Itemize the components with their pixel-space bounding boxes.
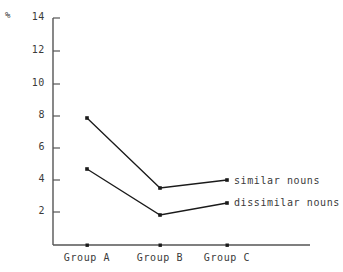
chart-container: % 14 12 10 8 6 4 2 Group A Group B Group… <box>0 0 343 272</box>
x-axis-label-group-c: Group C <box>187 252 267 263</box>
y-axis-ticks <box>53 18 60 212</box>
chart-plot-area <box>0 0 343 272</box>
series-dissimilar-nouns-point-group-a <box>85 167 89 171</box>
y-axis-unit-label: % <box>5 10 11 20</box>
series-similar-nouns-point-group-b <box>158 186 162 190</box>
series-dissimilar-nouns-line <box>87 169 227 215</box>
y-axis-tick-label-14: 14 <box>23 11 45 22</box>
x-tick-group-c <box>226 244 229 247</box>
series-dissimilar-nouns-point-group-b <box>158 213 162 217</box>
legend-label-similar-nouns: similar nouns <box>234 175 320 186</box>
y-axis-tick-label-10: 10 <box>23 77 45 88</box>
series-dissimilar-nouns-point-group-c <box>225 201 229 205</box>
y-axis-tick-label-6: 6 <box>23 141 45 152</box>
legend-label-dissimilar-nouns: dissimilar nouns <box>234 197 340 208</box>
series-similar-nouns <box>85 116 229 190</box>
series-dissimilar-nouns <box>85 167 229 217</box>
y-axis-tick-label-4: 4 <box>23 173 45 184</box>
x-tick-group-a <box>86 244 89 247</box>
y-axis-tick-label-2: 2 <box>23 205 45 216</box>
series-similar-nouns-point-group-c <box>225 178 229 182</box>
y-axis-tick-label-8: 8 <box>23 109 45 120</box>
x-tick-group-b <box>159 244 162 247</box>
series-similar-nouns-point-group-a <box>85 116 89 120</box>
x-axis-label-group-a: Group A <box>47 252 127 263</box>
y-axis-tick-label-12: 12 <box>23 44 45 55</box>
series-similar-nouns-line <box>87 118 227 188</box>
